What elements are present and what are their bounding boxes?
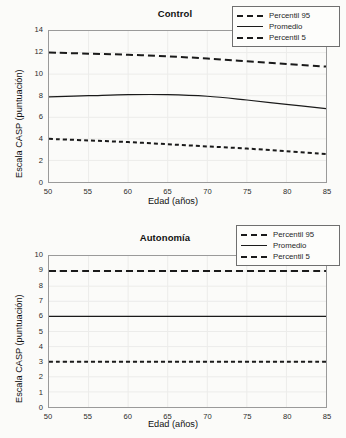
series-line bbox=[49, 139, 326, 154]
legend-swatch-icon bbox=[237, 32, 263, 43]
legend-item: Percentil 5 bbox=[237, 32, 334, 43]
legend-swatch-icon bbox=[241, 251, 267, 262]
y-tick-label: 10 bbox=[21, 69, 43, 78]
chart-panel-autonomia: Autonomía Escala CASP (puntuación) 01234… bbox=[0, 219, 346, 438]
chart-panel-control: Control Escala CASP (puntuación) 0246810… bbox=[0, 0, 346, 219]
y-tick-label: 4 bbox=[21, 134, 43, 143]
legend-item: Percentil 5 bbox=[241, 251, 334, 262]
chart-title-autonomia: Autonomía bbox=[110, 232, 220, 243]
legend-label: Percentil 95 bbox=[273, 229, 314, 240]
y-tick-label: 2 bbox=[21, 372, 43, 381]
y-tick-label: 6 bbox=[21, 311, 43, 320]
legend-swatch-icon bbox=[241, 240, 267, 251]
y-tick-label: 5 bbox=[21, 327, 43, 336]
y-tick-label: 3 bbox=[21, 357, 43, 366]
x-tick-label: 70 bbox=[196, 187, 218, 196]
y-tick-label: 14 bbox=[21, 25, 43, 34]
legend-label: Percentil 5 bbox=[269, 32, 306, 43]
series-line bbox=[49, 94, 326, 108]
x-tick-label: 55 bbox=[77, 412, 99, 421]
y-tick-label: 2 bbox=[21, 156, 43, 165]
y-tick-label: 1 bbox=[21, 388, 43, 397]
plot-lines-autonomia bbox=[49, 256, 326, 407]
legend-autonomia: Percentil 95PromedioPercentil 5 bbox=[236, 225, 340, 266]
x-tick-label: 80 bbox=[276, 412, 298, 421]
legend-swatch-icon bbox=[237, 10, 263, 21]
x-tick-label: 85 bbox=[316, 412, 338, 421]
x-tick-label: 85 bbox=[316, 187, 338, 196]
legend-swatch-icon bbox=[241, 229, 267, 240]
y-tick-label: 8 bbox=[21, 91, 43, 100]
y-tick-label: 0 bbox=[21, 403, 43, 412]
legend-label: Percentil 5 bbox=[273, 251, 310, 262]
chart-title-control: Control bbox=[120, 8, 230, 19]
legend-label: Percentil 95 bbox=[269, 10, 310, 21]
legend-swatch-icon bbox=[237, 21, 263, 32]
plot-area-control bbox=[48, 30, 327, 183]
legend-label: Promedio bbox=[273, 240, 306, 251]
legend-item: Percentil 95 bbox=[241, 229, 334, 240]
y-tick-label: 4 bbox=[21, 342, 43, 351]
y-tick-label: 0 bbox=[21, 178, 43, 187]
plot-area-autonomia bbox=[48, 255, 327, 408]
x-axis-label-autonomia: Edad (años) bbox=[118, 419, 228, 429]
y-tick-label: 6 bbox=[21, 112, 43, 121]
legend-item: Promedio bbox=[241, 240, 334, 251]
x-tick-label: 60 bbox=[117, 187, 139, 196]
x-tick-label: 80 bbox=[276, 187, 298, 196]
legend-label: Promedio bbox=[269, 21, 302, 32]
x-tick-label: 75 bbox=[236, 187, 258, 196]
y-tick-label: 9 bbox=[21, 265, 43, 274]
y-tick-label: 10 bbox=[21, 250, 43, 259]
series-line bbox=[49, 53, 326, 67]
legend-item: Promedio bbox=[237, 21, 334, 32]
y-tick-label: 12 bbox=[21, 47, 43, 56]
x-tick-label: 55 bbox=[77, 187, 99, 196]
plot-lines-control bbox=[49, 31, 326, 182]
y-tick-label: 7 bbox=[21, 296, 43, 305]
y-tick-label: 8 bbox=[21, 281, 43, 290]
x-axis-label-control: Edad (años) bbox=[118, 196, 228, 206]
x-tick-label: 50 bbox=[37, 187, 59, 196]
legend-item: Percentil 95 bbox=[237, 10, 334, 21]
x-tick-label: 75 bbox=[236, 412, 258, 421]
x-tick-label: 65 bbox=[157, 187, 179, 196]
legend-control: Percentil 95PromedioPercentil 5 bbox=[232, 6, 340, 47]
x-tick-label: 50 bbox=[37, 412, 59, 421]
